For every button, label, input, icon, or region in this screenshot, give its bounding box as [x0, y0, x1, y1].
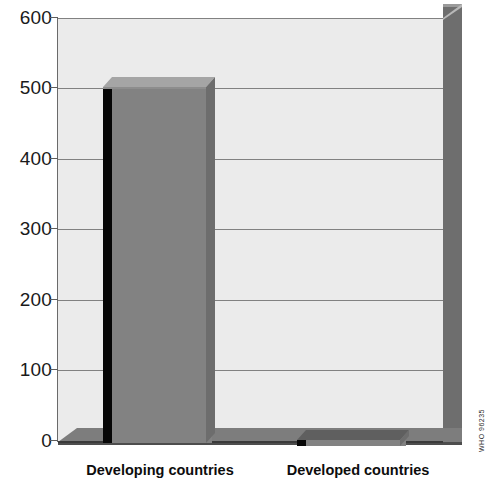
bar-right-depth — [206, 77, 216, 443]
plot-right-wall — [443, 4, 462, 428]
y-tick-label: 500 — [20, 77, 52, 99]
y-tick-mark — [49, 158, 58, 159]
y-tick-mark — [49, 299, 58, 300]
gridline-600 — [58, 18, 443, 19]
y-tick-label: 600 — [20, 7, 52, 29]
bar-right-depth — [400, 430, 411, 448]
y-tick-mark — [49, 369, 58, 370]
y-tick-label: 300 — [20, 218, 52, 240]
y-tick-mark — [49, 17, 58, 18]
y-tick-mark — [49, 228, 58, 229]
bar-chart: 600 500 400 300 200 100 0 — [0, 0, 485, 491]
y-tick-mark — [49, 87, 58, 88]
plot-top-bevel — [443, 4, 463, 20]
y-axis-line — [57, 18, 58, 442]
bar-developing-countries — [103, 77, 215, 443]
y-tick-label: 200 — [20, 289, 52, 311]
bar-top-face — [103, 77, 215, 89]
bar-front-face — [112, 87, 212, 443]
category-label-developing: Developing countries — [86, 462, 233, 478]
y-tick-label: 400 — [20, 148, 52, 170]
bar-top-face — [297, 430, 417, 442]
y-tick-label: 0 — [41, 430, 52, 452]
y-tick-mark — [49, 440, 58, 441]
category-label-developed: Developed countries — [287, 462, 430, 478]
bar-developed-countries — [297, 430, 417, 448]
bar-side-face — [103, 87, 112, 443]
y-tick-label: 100 — [20, 359, 52, 381]
credit-text: WHO 96235 — [478, 409, 485, 452]
